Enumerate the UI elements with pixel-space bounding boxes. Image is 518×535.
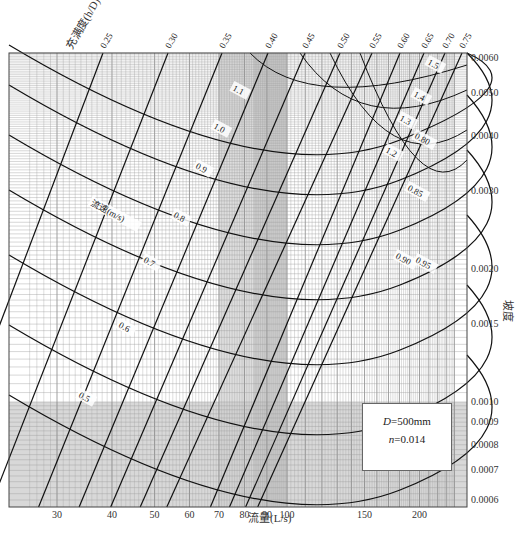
fill-ratio-label: 0.75 [457,31,474,50]
y-tick-label: 0.0060 [471,52,499,63]
y-tick-label: 0.0030 [471,185,499,196]
fill-ratio-label: 0.35 [217,31,234,50]
legend-box: D=500mm n=0.014 [362,403,452,471]
fill-ratio-label: 0.50 [335,31,352,50]
x-tick-label: 60 [184,509,194,520]
y-tick-label: 0.0009 [471,416,499,427]
y-tick-label: 0.0006 [471,494,499,505]
y-tick-label: 0.0010 [471,396,499,407]
fill-ratio-label: 0.30 [163,31,180,50]
y-tick-label: 0.0015 [471,318,499,329]
y-tick-label: 0.0050 [471,87,499,98]
x-tick-label: 40 [107,509,117,520]
fill-ratio-label: 0.40 [263,31,280,50]
x-axis-title: 流量(L/s) [248,511,292,525]
fill-ratio-label: 0.45 [300,31,317,50]
y-axis-title: 坡度 [502,300,515,322]
x-tick-label: 70 [214,509,224,520]
x-tick-label: 30 [52,509,62,520]
fill-ratio-label: 0.25 [98,31,115,50]
legend-roughness: n=0.014 [363,430,451,448]
x-tick-label: 150 [357,509,372,520]
y-tick-label: 0.0008 [471,439,499,450]
x-tick-label: 50 [150,509,160,520]
y-tick-label: 0.0007 [471,464,499,475]
y-tick-label: 0.0020 [471,263,499,274]
fill-ratio-label: 0.70 [440,31,457,50]
legend-diameter: D=500mm [363,412,451,430]
fill-ratio-label: 0.60 [395,31,412,50]
fill-ratio-label: 0.65 [419,31,436,50]
x-tick-label: 200 [412,509,427,520]
fill-ratio-label: 0.55 [367,31,384,50]
fill-ratio-title: 充满度(h/D) [62,0,103,52]
y-tick-label: 0.0040 [471,130,499,141]
